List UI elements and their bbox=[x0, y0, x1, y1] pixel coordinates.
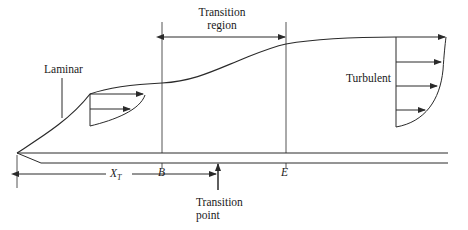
turbulent-velocity-profile bbox=[396, 37, 446, 127]
laminar-velocity-profile bbox=[90, 94, 145, 126]
flat-plate bbox=[17, 153, 448, 163]
transition-point-label: Transition point bbox=[196, 196, 243, 222]
point-e-label: E bbox=[281, 166, 288, 179]
laminar-label: Laminar bbox=[44, 63, 83, 76]
x-t-label: XT bbox=[110, 167, 121, 184]
point-b-label: B bbox=[158, 166, 165, 179]
x-t-symbol: X bbox=[110, 167, 117, 179]
transition-point-label-line2: point bbox=[196, 209, 243, 222]
transition-region-label: Transition region bbox=[172, 6, 272, 32]
boundary-layer-edge bbox=[17, 37, 396, 153]
x-t-subscript: T bbox=[117, 173, 121, 182]
transition-region-label-line2: region bbox=[172, 19, 272, 32]
transition-point-label-line1: Transition bbox=[196, 196, 243, 209]
turbulent-label: Turbulent bbox=[346, 72, 391, 85]
transition-region-label-line1: Transition bbox=[172, 6, 272, 19]
